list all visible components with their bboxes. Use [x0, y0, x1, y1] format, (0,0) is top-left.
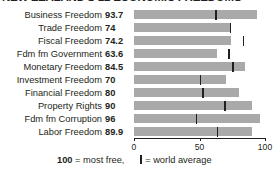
world-average-marker [215, 10, 217, 20]
bar-track [134, 49, 265, 58]
bar-track [134, 75, 265, 84]
chart-row: Monetary Freedom84.5 [0, 61, 280, 74]
category-label: Financial Freedom [25, 88, 102, 98]
category-label: Investment Freedom [17, 75, 102, 85]
value-bar [134, 88, 239, 97]
world-average-marker [202, 88, 204, 98]
chart-row: Business Freedom93.7 [0, 9, 280, 22]
world-average-marker [232, 62, 234, 72]
value-label: 84.5 [105, 62, 123, 72]
axis-tick [134, 138, 135, 141]
chart-row: Investment Freedom70 [0, 74, 280, 87]
value-bar [134, 101, 252, 110]
bar-chart-rows: Business Freedom93.7Trade Freedom74Fisca… [0, 9, 280, 139]
chart-row: Fdm fm Government63.6 [0, 48, 280, 61]
bar-track [134, 114, 265, 123]
axis-tick-label: 100 [258, 142, 272, 152]
category-label: Labor Freedom [38, 127, 102, 137]
world-average-marker [217, 127, 219, 137]
chart-row: Property Rights90 [0, 100, 280, 113]
category-label: Property Rights [38, 101, 102, 111]
chart-legend: 100 = most free,= world average [57, 155, 212, 165]
chart-title-container: NEW ZEALAND'S 12 ECONOMIC FREEDOMS [0, 0, 280, 8]
world-average-marker [196, 114, 198, 124]
chart-row: Trade Freedom74 [0, 22, 280, 35]
bar-track [134, 127, 265, 136]
world-average-marker [230, 23, 232, 33]
value-bar [134, 10, 257, 19]
category-label: Fiscal Freedom [38, 36, 102, 46]
x-axis: 050100 [134, 138, 265, 139]
value-bar [134, 49, 217, 58]
value-label: 89.9 [105, 127, 123, 137]
category-label: Trade Freedom [38, 23, 102, 33]
page-title: NEW ZEALAND'S 12 ECONOMIC FREEDOMS [2, 0, 241, 3]
value-bar [134, 36, 231, 45]
world-average-marker [243, 36, 245, 46]
bar-track [134, 36, 265, 45]
chart-row: Financial Freedom80 [0, 87, 280, 100]
world-average-tick-icon [140, 155, 142, 164]
world-average-marker [224, 101, 226, 111]
value-bar [134, 23, 231, 32]
axis-tick [265, 138, 266, 141]
bar-track [134, 10, 265, 19]
bar-track [134, 88, 265, 97]
category-label: Fdm fm Government [17, 49, 102, 59]
value-label: 90 [105, 101, 115, 111]
value-bar [134, 127, 252, 136]
value-bar [134, 62, 245, 71]
world-average-marker [228, 49, 230, 59]
bar-track [134, 62, 265, 71]
legend-most-free-text: = most free, [73, 155, 125, 165]
legend-most-free-value: 100 [57, 155, 73, 165]
bar-track [134, 101, 265, 110]
value-label: 80 [105, 88, 115, 98]
axis-tick [200, 138, 201, 141]
value-label: 93.7 [105, 10, 123, 20]
category-label: Fdm fm Corruption [25, 114, 103, 124]
chart-row: Fdm fm Corruption96 [0, 113, 280, 126]
value-label: 74.2 [105, 36, 123, 46]
value-bar [134, 75, 226, 84]
value-label: 70 [105, 75, 115, 85]
axis-tick-label: 50 [195, 142, 205, 152]
category-label: Business Freedom [24, 10, 102, 20]
value-label: 63.6 [105, 49, 123, 59]
world-average-marker [200, 75, 202, 85]
value-label: 96 [105, 114, 115, 124]
bar-track [134, 23, 265, 32]
axis-tick-label: 0 [132, 142, 137, 152]
legend-world-average-text: = world average [145, 155, 211, 165]
chart-row: Fiscal Freedom74.2 [0, 35, 280, 48]
category-label: Monetary Freedom [23, 62, 102, 72]
value-label: 74 [105, 23, 115, 33]
